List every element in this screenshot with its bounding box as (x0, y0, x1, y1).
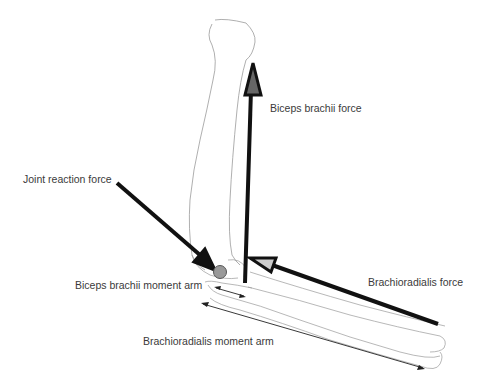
joint-reaction-label: Joint reaction force (23, 173, 112, 185)
biceps-moment-arm-label: Biceps brachii moment arm (75, 279, 202, 291)
brachioradialis-force-label: Brachioradialis force (368, 276, 463, 288)
elbow-biomechanics-diagram: Biceps brachii force Joint reaction forc… (0, 0, 481, 388)
biceps-force-arrowhead (245, 63, 261, 95)
joint-center (214, 266, 227, 279)
brachioradialis-arrow-shaft (272, 265, 438, 324)
biceps-moment-arm-arrow-left (214, 286, 221, 290)
biceps-force-label: Biceps brachii force (270, 102, 362, 114)
joint-reaction-arrow-shaft (117, 183, 200, 255)
biceps-force-arrow-shaft (245, 90, 251, 283)
brachioradialis-moment-arm-arrow-left (201, 302, 209, 307)
brachioradialis-moment-arm-label: Brachioradialis moment arm (143, 335, 274, 347)
biceps-moment-arm-arrow-right (239, 294, 246, 298)
brachioradialis-arrowhead (250, 258, 276, 272)
diagram-canvas (0, 0, 481, 388)
